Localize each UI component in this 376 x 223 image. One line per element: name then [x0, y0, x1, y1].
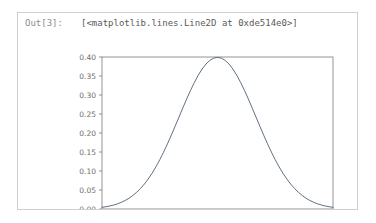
- plot-canvas: 0.000.050.100.150.200.250.300.350.40 −3−…: [18, 39, 357, 209]
- y-axis-tick-marks: [99, 57, 102, 209]
- output-prompt-label: Out[3]:: [25, 17, 63, 29]
- screenshot-root: Out[3]: [<matplotlib.lines.Line2D at 0xd…: [0, 0, 376, 223]
- output-repr-text: [<matplotlib.lines.Line2D at 0xde514e0>]: [81, 17, 298, 29]
- y-tick-label: 0.20: [79, 129, 96, 138]
- notebook-output-cell: Out[3]: [<matplotlib.lines.Line2D at 0xd…: [17, 12, 358, 210]
- y-tick-label: 0.00: [79, 205, 96, 209]
- y-tick-label: 0.15: [79, 148, 96, 157]
- data-series-line: [102, 57, 333, 207]
- y-tick-label: 0.40: [79, 53, 96, 62]
- axes-frame: [102, 57, 333, 209]
- y-tick-label: 0.30: [79, 91, 96, 100]
- y-tick-label: 0.25: [79, 110, 96, 119]
- output-prompt-row: Out[3]: [<matplotlib.lines.Line2D at 0xd…: [18, 13, 357, 39]
- y-axis-tick-labels: 0.000.050.100.150.200.250.300.350.40: [79, 53, 96, 209]
- y-tick-label: 0.35: [79, 72, 96, 81]
- matplotlib-figure: 0.000.050.100.150.200.250.300.350.40 −3−…: [18, 39, 357, 209]
- y-tick-label: 0.05: [79, 186, 96, 195]
- y-tick-label: 0.10: [79, 167, 96, 176]
